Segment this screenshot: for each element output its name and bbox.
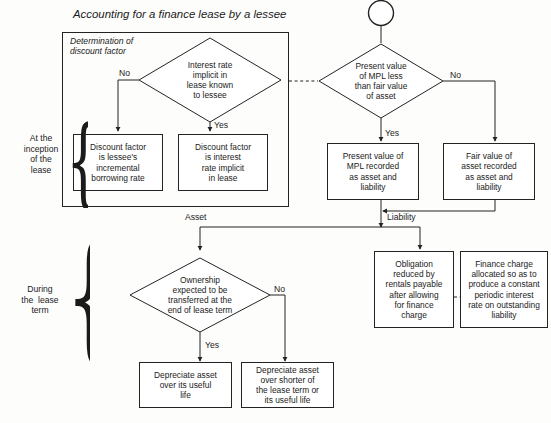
edge-fairvalue-merge [383,200,495,211]
brace-during-term: { [66,232,90,362]
edge-label-no-ownership: No [274,284,285,294]
group-caption-discount-factor: Determination of discount factor [70,36,133,57]
edge-label-asset: Asset [185,212,207,222]
flowchart-canvas: Accounting for a finance lease by a less… [0,0,551,423]
process-pv-mpl-recorded[interactable]: Present value of MPL recorded as asset a… [327,143,419,200]
process-obligation-reduced[interactable]: Obligation reduced by rentals payable af… [374,251,454,328]
start-circle [369,1,394,26]
process-fair-value-recorded[interactable]: Fair value of asset recorded as asset an… [443,143,535,200]
diamond-pv-mpl [319,44,443,118]
edge-no-pv-mpl [443,81,495,141]
process-finance-charge-allocated[interactable]: Finance charge allocated so as to produc… [460,251,548,328]
edge-label-yes-interest-rate: Yes [214,120,228,130]
process-discount-factor-implicit[interactable]: Discount factor is interest rate implici… [178,134,268,191]
brace-inception: { [66,114,88,208]
process-depreciate-shorter[interactable]: Depreciate asset over shorter of the lea… [241,362,334,408]
page-title: Accounting for a finance lease by a less… [73,8,286,20]
edge-label-no-interest-rate: No [119,68,130,78]
side-label-during-term: During the lease term [8,284,72,316]
diamond-interest-rate-known [139,38,281,122]
process-depreciate-useful-life[interactable]: Depreciate asset over its useful life [139,362,232,408]
side-label-inception: At the inception of the lease [10,133,72,175]
edge-label-no-pv-mpl: No [450,70,461,80]
diamond-ownership [130,258,270,332]
edge-label-liability: Liability [387,212,416,222]
edge-label-yes-pv-mpl: Yes [385,128,399,138]
edge-label-yes-ownership: Yes [205,340,219,350]
edge-no-interest-rate [118,80,139,131]
edge-no-ownership [270,295,285,361]
